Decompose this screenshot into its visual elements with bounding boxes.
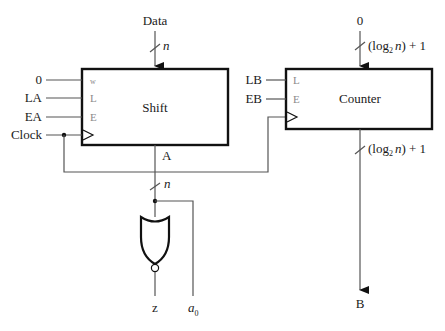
pin-e: E <box>90 111 97 123</box>
input-clock: Clock <box>11 127 43 142</box>
input-eb: EB <box>245 91 262 106</box>
shift-title: Shift <box>142 100 168 115</box>
input-lb: LB <box>245 72 262 87</box>
output-a0-label: a0 <box>188 300 199 318</box>
nor-gate: z <box>141 217 169 315</box>
counter-width-label: (log2n) + 1 <box>368 38 426 55</box>
data-width-label: n <box>163 38 170 53</box>
pin-e: E <box>293 93 300 105</box>
circuit-diagram: Data n Shift w L E 0 LA EA Clock A n <box>0 0 445 331</box>
counter-output: (log2n) + 1 B <box>355 129 426 311</box>
counter-init-label: 0 <box>357 13 364 28</box>
output-z-label: z <box>152 300 158 315</box>
counter: Counter L E LB EB <box>245 69 432 129</box>
counter-input: 0 (log2n) + 1 <box>355 13 426 66</box>
input-la: LA <box>25 90 43 105</box>
pin-l: L <box>293 74 300 86</box>
pin-w: w <box>90 77 96 86</box>
output-a-label: A <box>162 148 172 163</box>
pin-l: L <box>90 92 97 104</box>
inversion-bubble-icon <box>151 264 158 271</box>
counter-title: Counter <box>339 91 382 106</box>
output-width-label: n <box>164 176 171 191</box>
nor-gate-icon <box>141 217 169 264</box>
shift-register: Shift w L E 0 LA EA Clock <box>11 69 228 145</box>
data-input: Data n <box>143 13 170 66</box>
counter-output-width-label: (log2n) + 1 <box>368 141 426 158</box>
input-ea: EA <box>25 109 43 124</box>
output-b-label: B <box>356 296 365 311</box>
input-zero: 0 <box>36 72 43 87</box>
data-label: Data <box>143 13 168 28</box>
